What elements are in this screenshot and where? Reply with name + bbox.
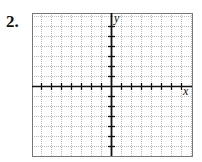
x-axis-label: x xyxy=(182,84,189,98)
y-axis-label: y xyxy=(113,11,120,25)
grid-border xyxy=(33,14,193,157)
axes xyxy=(32,13,192,156)
coordinate-grid: x y xyxy=(0,0,202,162)
